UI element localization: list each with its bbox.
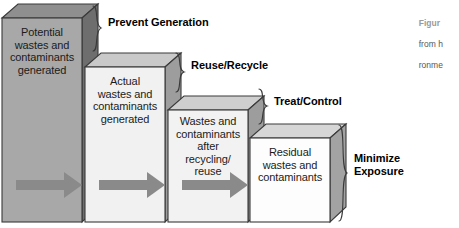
box-front-face [85,67,165,222]
figure-caption-head: Figur [419,18,441,28]
box-residual-wastes: Residual wastes and contaminants [250,124,346,224]
diagram-canvas: Potential wastes and contaminants genera… [0,0,459,228]
figure-caption-line3: ronme [419,60,443,70]
box-actual-wastes: Actual wastes and contaminants generated [85,53,181,224]
box-residual-wastes-shape [250,124,346,224]
box-front-face [168,110,248,222]
box-potential-wastes: Potential wastes and contaminants genera… [2,4,98,224]
tier-label-prevent-generation: Prevent Generation [108,16,209,29]
bracket-reuse-recycle [173,52,191,94]
figure-caption-line2: from h [419,39,443,49]
bracket-prevent-generation [90,5,108,53]
figure-caption: Figur from h ronme [409,7,443,81]
tier-label-treat-control: Treat/Control [274,95,342,108]
box-potential-wastes-shape [2,4,98,224]
box-front-face [250,138,330,222]
tier-label-minimize-exposure: Minimize Exposure [354,152,404,178]
bracket-treat-control [256,88,274,126]
tier-label-reuse-recycle: Reuse/Recycle [191,59,268,72]
box-actual-wastes-shape [85,53,181,224]
bracket-minimize-exposure [336,124,354,224]
